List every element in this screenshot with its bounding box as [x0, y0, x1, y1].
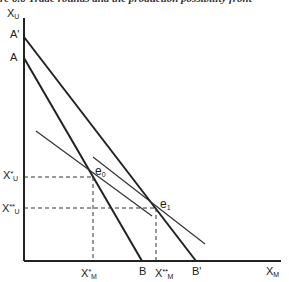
label-A: A [10, 52, 17, 63]
label-A-prime: A' [10, 29, 19, 40]
tick-xm-2star: X**M [155, 266, 173, 282]
label-B-prime: B' [192, 266, 201, 277]
y-axis-label: XU [7, 8, 19, 22]
ppf-line-A-B [24, 58, 142, 261]
tick-xu-2star: X**U [2, 201, 20, 217]
tangent-line-e1 [93, 157, 205, 244]
label-e1: e1 [160, 199, 171, 213]
ppf-line-Aprime-Bprime [24, 37, 196, 261]
tangent-line-e0 [36, 131, 152, 216]
label-e0: e0 [95, 166, 106, 180]
x-axis-label: XM [266, 266, 279, 280]
label-B: B [139, 266, 146, 277]
tick-xu-star: X*U [3, 168, 18, 184]
tick-xm-star: X*M [81, 266, 97, 282]
